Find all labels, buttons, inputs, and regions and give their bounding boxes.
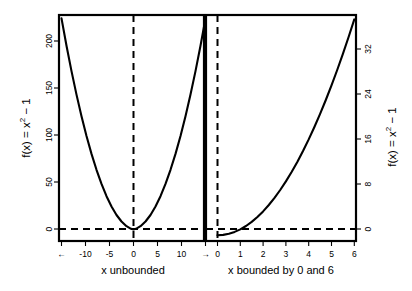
left-y-axis-title-group: f(x) = x2 − 1	[18, 98, 33, 157]
left-y-tick-label: 50	[44, 177, 54, 187]
left-x-tick-label: -5	[106, 249, 114, 259]
left-y-tick-label: 200	[44, 34, 54, 48]
right-curve-group	[218, 19, 355, 235]
right-y-tick-labels: 0 8 16 24 32	[363, 44, 373, 231]
right-x-tick-label: 0	[215, 249, 220, 259]
right-y-tick-label: 8	[363, 181, 373, 186]
figure-container: 0 50 100 150 200 f(x) = x2 − 1	[0, 0, 412, 291]
right-y-tick-label: 16	[363, 134, 373, 144]
right-panel-border	[206, 15, 356, 241]
left-y-tick-label: 0	[44, 226, 54, 231]
left-y-axis-title-tail: − 1	[20, 98, 32, 114]
right-x-axis-title: x bounded by 0 and 6	[228, 264, 334, 276]
right-y-tick-label: 32	[363, 44, 373, 54]
left-x-tick-label: ←	[57, 249, 66, 259]
right-y-tick-label: 0	[363, 226, 373, 231]
right-x-tick-label: 4	[306, 249, 311, 259]
left-y-tick-label: 100	[44, 128, 54, 142]
right-y-axis-title-group: f(x) = x2 − 1	[384, 107, 399, 166]
left-x-tick-label: 0	[131, 249, 136, 259]
right-y-axis-title-base: f(x) = x	[386, 131, 398, 167]
left-x-tick-label: →	[201, 249, 210, 259]
left-x-tick-labels: ← -10 -5 0 5 10 →	[57, 249, 210, 259]
chart-svg: 0 50 100 150 200 f(x) = x2 − 1	[0, 0, 412, 291]
left-y-tick-labels: 0 50 100 150 200	[44, 34, 54, 232]
right-y-axis-title: f(x) = x2 − 1	[384, 107, 399, 166]
right-parabola-curve	[218, 19, 355, 235]
right-x-tick-label: 3	[284, 249, 289, 259]
left-x-tick-label: 5	[155, 249, 160, 259]
right-panel: 0 8 16 24 32 f(x) = x2 − 1 0	[206, 15, 398, 276]
left-x-tick-label: 10	[177, 249, 187, 259]
right-x-tick-labels: 0 1 2 3 4 5 6	[215, 249, 357, 259]
right-x-tick-label: 6	[352, 249, 357, 259]
left-y-axis-title: f(x) = x2 − 1	[18, 98, 33, 157]
left-x-tick-label: -10	[79, 249, 92, 259]
left-y-axis-title-base: f(x) = x	[20, 122, 32, 158]
left-panel: 0 50 100 150 200 f(x) = x2 − 1	[18, 15, 210, 276]
right-y-tick-label: 24	[363, 89, 373, 99]
right-x-tick-label: 2	[261, 249, 266, 259]
right-y-axis-title-tail: − 1	[386, 107, 398, 123]
right-x-tick-label: 1	[238, 249, 243, 259]
right-x-tick-label: 5	[329, 249, 334, 259]
left-x-axis-title: x unbounded	[101, 264, 165, 276]
left-y-tick-label: 150	[44, 81, 54, 95]
